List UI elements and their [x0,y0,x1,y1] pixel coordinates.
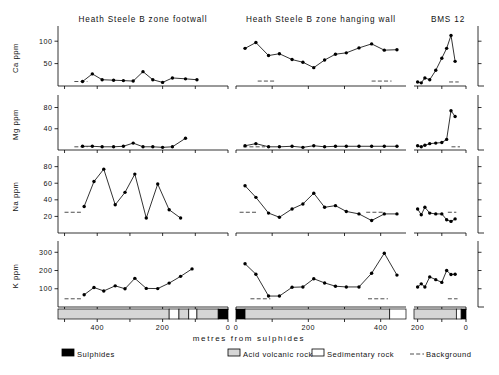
series-line-Na-middle [245,186,397,221]
data-point [267,54,270,57]
data-point [254,142,257,145]
data-point [345,210,348,213]
lithology-sedimentary-rock [169,309,179,319]
lithology-sulphides [218,309,228,319]
data-point [151,78,154,81]
data-point [179,216,182,219]
data-point [423,285,426,288]
row-label-2: Na ppm [11,182,20,212]
data-point [167,281,170,284]
data-point [453,60,456,63]
data-point [445,47,448,50]
data-point [357,145,360,148]
data-point [416,144,419,147]
data-point [434,141,437,144]
panel-title-middle: Heath Steele B zone hanging wall [246,15,396,24]
lithology-acid-volcanic-rock [414,309,456,319]
data-point [440,141,443,144]
lithology-acid-volcanic-rock [58,309,169,319]
data-point [171,145,174,148]
legend-label-0: Sulphides [77,350,115,359]
data-point [383,212,386,215]
data-point [434,278,437,281]
y-tick-label-60: 60 [44,179,53,188]
series-line-Ca-right [418,35,455,82]
series-line-K-middle [245,253,397,296]
chart-canvas: Heath Steele B zone footwallHeath Steele… [0,0,499,375]
data-point [453,217,456,220]
data-point [445,269,448,272]
data-point [357,285,360,288]
x-tick-label-middle-400: 400 [374,323,388,332]
data-point [195,78,198,81]
data-point [243,47,246,50]
data-point [82,293,85,296]
data-point [449,273,452,276]
data-point [334,52,337,55]
data-point [357,46,360,49]
data-point [395,145,398,148]
data-point [131,79,134,82]
data-point [267,294,270,297]
data-point [243,184,246,187]
data-point [416,285,419,288]
data-point [416,207,419,210]
y-tick-label-20: 20 [44,212,53,221]
data-point [301,202,304,205]
data-point [395,48,398,51]
data-point [267,145,270,148]
data-point [370,145,373,148]
data-point [445,218,448,221]
x-tick-label-left-200: 200 [156,323,170,332]
data-point [434,69,437,72]
data-point [440,281,443,284]
y-tick-label-100: 100 [39,284,53,293]
data-point [428,275,431,278]
data-point [290,145,293,148]
lithology-sedimentary-rock [456,309,461,319]
data-point [323,58,326,61]
data-point [395,212,398,215]
data-point [423,76,426,79]
data-point [112,78,115,81]
data-point [141,70,144,73]
data-point [122,79,125,82]
lithology-sedimentary-rock [189,309,197,319]
data-point [267,211,270,214]
data-point [290,286,293,289]
data-point [278,294,281,297]
data-point [345,51,348,54]
data-point [123,191,126,194]
data-point [278,52,281,55]
panel-title-left: Heath Steele B zone footwall [79,15,208,24]
data-point [254,272,257,275]
data-point [184,77,187,80]
data-point [171,76,174,79]
data-point [254,196,257,199]
row-label-3: K ppm [11,264,20,289]
series-line-Mg-right [418,111,455,147]
y-tick-label-80: 80 [44,103,53,112]
data-point [167,208,170,211]
data-point [449,220,452,223]
data-point [345,285,348,288]
data-point [420,213,423,216]
data-point [151,145,154,148]
lithology-acid-volcanic-rock [197,309,218,319]
geochemistry-figure: Heath Steele B zone footwallHeath Steele… [0,0,499,375]
data-point [312,144,315,147]
data-point [312,191,315,194]
data-point [453,115,456,118]
data-point [370,42,373,45]
x-tick-label-middle-200: 200 [302,323,316,332]
data-point [334,204,337,207]
data-point [434,212,437,215]
data-point [420,282,423,285]
data-point [312,277,315,280]
x-tick-label-middle-0: 0 [234,323,239,332]
data-point [383,252,386,255]
data-point [81,80,84,83]
row-label-0: Ca ppm [11,43,20,73]
series-line-Ca-left [83,72,197,83]
data-point [453,272,456,275]
